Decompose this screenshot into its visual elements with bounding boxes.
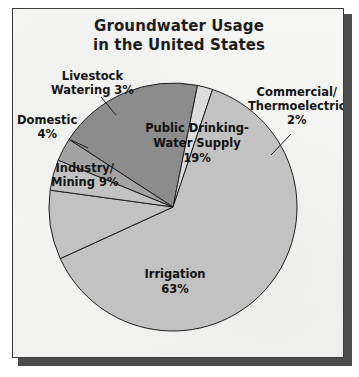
slice-label-domestic-line-1: Domestic [17,113,77,127]
slice-label-industry-line-1: Industry/ [51,161,118,175]
slice-label-irrigation: Irrigation 63% [125,267,225,297]
slice-label-industry-mining: Industry/ Mining 9% [51,161,118,189]
slice-label-public-line-1: Public Drinking- [135,121,259,136]
slice-label-livestock-watering: Livestock Watering 3% [51,69,134,97]
slice-label-domestic: Domestic 4% [17,113,77,141]
slice-label-commercial-thermoelectric: Commercial/ Thermoelectric 2% [248,85,344,127]
slice-label-livestock-line-1: Livestock [51,69,134,83]
slice-label-livestock-line-2: Watering 3% [51,83,134,97]
slice-label-public-drinking-water-supply: Public Drinking- Water Supply 19% [135,121,259,166]
slice-label-industry-line-2: Mining 9% [51,175,118,189]
slice-label-irrigation-line-1: Irrigation [125,267,225,282]
slice-label-domestic-line-2: 4% [17,127,77,141]
slice-label-commercial-line-2: Thermoelectric [248,99,344,113]
slice-label-public-value: 19% [135,151,259,166]
slice-label-public-line-2: Water Supply [135,136,259,151]
figure-root: Groundwater Usage in the United States L… [0,0,359,377]
slice-label-commercial-line-1: Commercial/ [248,85,344,99]
slice-label-commercial-value: 2% [248,113,344,127]
slice-label-irrigation-value: 63% [125,282,225,297]
chart-panel: Groundwater Usage in the United States L… [12,8,344,358]
